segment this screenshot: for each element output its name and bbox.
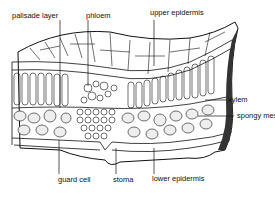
label-xylem: xylem xyxy=(228,96,248,104)
label-palisade-layer: palisade layer xyxy=(12,12,58,20)
label-upper-epidermis: upper epidermis xyxy=(150,9,204,17)
label-spongy-mesophyll: spongy mesophyll xyxy=(237,112,275,120)
label-phloem: phloem xyxy=(86,12,111,20)
leaf-cross-section-diagram: palisade layer phloem upper epidermis xy… xyxy=(0,0,275,200)
label-guard-cell: guard cell xyxy=(58,176,91,184)
label-stoma: stoma xyxy=(113,176,133,184)
label-lower-epidermis: lower epidermis xyxy=(152,175,205,183)
